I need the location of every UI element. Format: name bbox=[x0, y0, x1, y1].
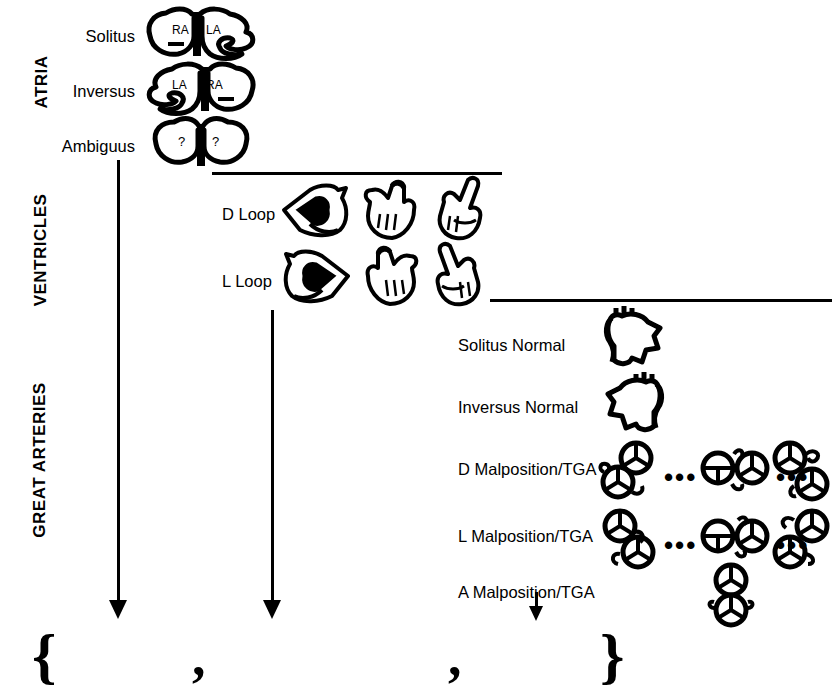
flow-arrow-ventricles-head bbox=[263, 600, 281, 619]
flow-arrow-ventricles-shaft bbox=[271, 310, 274, 602]
ventricle-pointing-hand-l-loop bbox=[430, 242, 488, 308]
atria-diagram-inversus: LA RA bbox=[142, 59, 260, 117]
section-title-ventricles: VENTRICLES bbox=[31, 175, 51, 325]
notation-comma-second: , bbox=[448, 630, 462, 684]
atria-chamber-label-left: ? bbox=[178, 134, 185, 149]
row-label-arteries-a-malposition: A Malposition/TGA bbox=[458, 584, 653, 601]
artery-valve-pair-a-1 bbox=[700, 562, 762, 630]
notation-comma-first: , bbox=[192, 630, 206, 684]
ventricle-hand-d-loop bbox=[358, 180, 424, 242]
row-label-atria-inversus: Inversus bbox=[40, 83, 135, 100]
divider-ventricles bbox=[212, 172, 502, 175]
artery-valve-pair-l-2 bbox=[700, 512, 772, 564]
atria-diagram-solitus: RA LA bbox=[142, 4, 260, 62]
divider-great-arteries bbox=[490, 299, 832, 302]
ventricle-diagram-l-loop bbox=[280, 250, 352, 306]
artery-valve-pair-l-3 bbox=[768, 506, 836, 572]
artery-ellipsis-d-1: ••• bbox=[664, 464, 697, 490]
flow-arrow-atria-head bbox=[109, 600, 127, 619]
atria-chamber-label-right: ? bbox=[212, 134, 219, 149]
atria-chamber-label-right: RA bbox=[206, 78, 223, 92]
artery-valve-pair-l-1 bbox=[598, 506, 660, 572]
notation-close-brace: } bbox=[600, 625, 624, 687]
section-title-atria: ATRIA bbox=[32, 32, 52, 132]
ventricle-diagram-d-loop bbox=[280, 184, 352, 240]
artery-diagram-inversus-normal bbox=[600, 372, 668, 434]
ventricle-hand-l-loop bbox=[358, 246, 424, 308]
flow-arrow-great-arteries-head bbox=[529, 606, 543, 621]
notation-open-brace: { bbox=[32, 625, 56, 687]
ventricle-pointing-hand-d-loop bbox=[430, 176, 488, 242]
section-title-great-arteries: GREAT ARTERIES bbox=[30, 370, 50, 550]
artery-diagram-solitus-normal bbox=[600, 306, 668, 368]
flow-arrow-atria-shaft bbox=[117, 160, 120, 602]
artery-valve-pair-d-1 bbox=[598, 438, 660, 504]
artery-valve-pair-d-3 bbox=[768, 438, 836, 504]
atria-chamber-label-left: LA bbox=[172, 78, 187, 92]
segmental-anatomy-figure: ATRIA VENTRICLES GREAT ARTERIES Solitus … bbox=[0, 0, 836, 691]
atria-chamber-label-right: LA bbox=[206, 23, 221, 37]
row-label-atria-ambiguus: Ambiguus bbox=[30, 138, 135, 155]
atria-chamber-label-left: RA bbox=[172, 23, 189, 37]
artery-valve-pair-d-2 bbox=[700, 444, 772, 496]
row-label-atria-solitus: Solitus bbox=[40, 28, 135, 45]
atria-diagram-ambiguus: ? ? bbox=[146, 114, 256, 172]
artery-ellipsis-l-1: ••• bbox=[664, 532, 697, 558]
